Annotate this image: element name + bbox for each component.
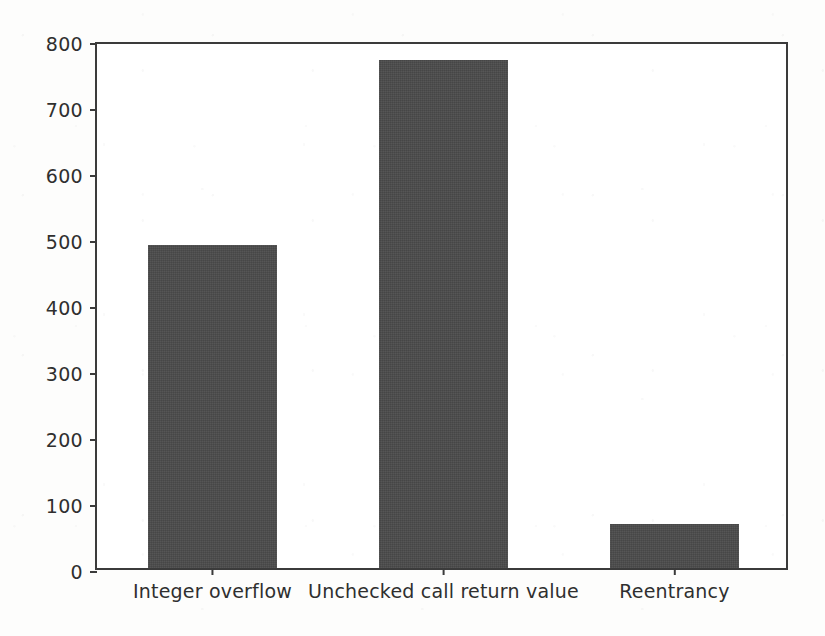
- y-axis-tick: 400: [46, 297, 97, 319]
- y-axis-tick-mark: [90, 439, 97, 441]
- y-axis-tick: 700: [46, 99, 97, 121]
- y-axis-tick-label: 700: [46, 99, 90, 121]
- y-axis-tick-label: 0: [71, 561, 90, 583]
- y-axis-tick-mark: [90, 307, 97, 309]
- y-axis-tick: 200: [46, 429, 97, 451]
- y-axis-tick-label: 400: [46, 297, 90, 319]
- x-axis-tick-mark: [674, 568, 676, 575]
- y-axis-tick-mark: [90, 373, 97, 375]
- x-axis-tick-mark: [443, 568, 445, 575]
- y-axis-tick: 600: [46, 165, 97, 187]
- y-axis-tick: 800: [46, 33, 97, 55]
- x-axis-tick: Integer overflow: [133, 568, 292, 602]
- x-axis-tick-label: Unchecked call return value: [308, 580, 579, 602]
- x-axis-tick: Unchecked call return value: [308, 568, 579, 602]
- y-axis-tick-label: 300: [46, 363, 90, 385]
- bars-layer: [97, 44, 786, 568]
- y-axis-tick-label: 200: [46, 429, 90, 451]
- y-axis-tick-label: 100: [46, 495, 90, 517]
- y-axis-tick-mark: [90, 109, 97, 111]
- y-axis-tick-mark: [90, 175, 97, 177]
- bar: [610, 524, 739, 568]
- y-axis-tick-mark: [90, 43, 97, 45]
- y-axis-tick: 300: [46, 363, 97, 385]
- plot-area: 0100200300400500600700800 Integer overfl…: [95, 42, 788, 570]
- x-axis-tick: Reentrancy: [619, 568, 729, 602]
- y-axis-tick-mark: [90, 241, 97, 243]
- x-axis-tick-label: Integer overflow: [133, 580, 292, 602]
- bar: [379, 60, 508, 568]
- bar-chart-figure: 0100200300400500600700800 Integer overfl…: [0, 0, 825, 636]
- y-axis-tick: 0: [71, 561, 97, 583]
- y-axis-tick-mark: [90, 571, 97, 573]
- y-axis-tick: 500: [46, 231, 97, 253]
- x-axis-tick-label: Reentrancy: [619, 580, 729, 602]
- y-axis-tick: 100: [46, 495, 97, 517]
- y-axis-tick-mark: [90, 505, 97, 507]
- y-axis-tick-label: 500: [46, 231, 90, 253]
- y-axis-tick-label: 800: [46, 33, 90, 55]
- y-axis-tick-label: 600: [46, 165, 90, 187]
- bar: [148, 245, 277, 568]
- x-axis-tick-mark: [212, 568, 214, 575]
